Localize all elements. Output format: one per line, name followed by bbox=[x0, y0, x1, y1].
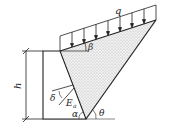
theta-label: θ bbox=[99, 108, 105, 118]
thrust-label: E bbox=[65, 98, 73, 108]
beta-label: β bbox=[87, 42, 93, 52]
theta-arc bbox=[93, 110, 96, 119]
earth-pressure-diagram: q β h δ E a α θ bbox=[0, 0, 172, 129]
height-label: h bbox=[12, 83, 23, 89]
height-dimension bbox=[22, 48, 43, 122]
thrust-subscript: a bbox=[73, 102, 77, 109]
alpha-label: α bbox=[72, 109, 78, 119]
delta-label: δ bbox=[50, 93, 55, 103]
diagram-canvas: q β h δ E a α θ bbox=[0, 0, 172, 129]
load-label-q: q bbox=[115, 5, 121, 16]
